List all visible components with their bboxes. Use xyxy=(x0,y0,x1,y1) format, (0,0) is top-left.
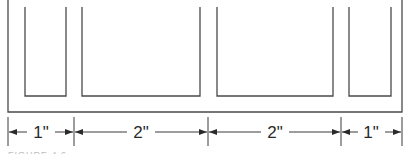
dimension-4: 1" xyxy=(342,123,401,142)
figure-caption: FIGURE 4.6 xyxy=(8,150,67,154)
slot-1 xyxy=(25,7,66,96)
dimension-label: 1" xyxy=(33,123,49,142)
slot-2 xyxy=(82,7,200,96)
outer-frame xyxy=(8,0,402,112)
dimension-label: 2" xyxy=(133,123,149,142)
dimension-3: 2" xyxy=(209,123,340,142)
dimension-label: 2" xyxy=(267,123,283,142)
slot-4 xyxy=(349,7,391,96)
dimension-2: 2" xyxy=(75,123,207,142)
slot-3 xyxy=(217,7,333,96)
dimension-1: 1" xyxy=(9,123,73,142)
technical-drawing: 1" 2" 2" 1" FIGURE 4.6 xyxy=(0,0,413,154)
dimension-label: 1" xyxy=(363,123,379,142)
